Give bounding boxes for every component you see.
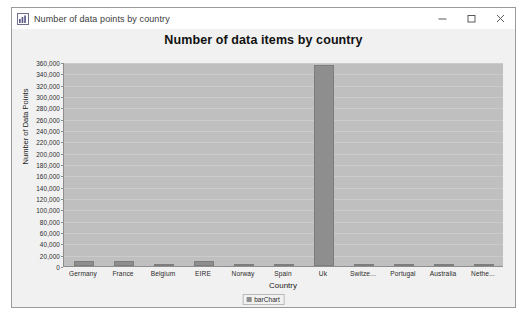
y-axis-ticks: 020,00040,00060,00080,000100,000120,0001… <box>12 63 60 267</box>
gridline <box>64 97 503 98</box>
x-axis-tick-label: Norway <box>232 270 255 277</box>
close-button[interactable] <box>486 8 515 29</box>
gridline <box>64 63 503 64</box>
plot-area <box>63 63 503 267</box>
y-axis-tick-label: 40,000 <box>14 241 60 248</box>
y-axis-tick-label: 200,000 <box>14 150 60 157</box>
gridline <box>64 74 503 75</box>
y-axis-tick-label: 160,000 <box>14 173 60 180</box>
y-axis-tick-label: 260,000 <box>14 116 60 123</box>
gridline <box>64 120 503 121</box>
gridline <box>64 108 503 109</box>
x-axis-tick-label: EIRE <box>195 270 211 277</box>
window-controls <box>428 8 515 29</box>
maximize-icon <box>466 13 477 24</box>
bar[interactable] <box>434 264 455 266</box>
minimize-button[interactable] <box>428 8 457 29</box>
y-axis-tick-label: 240,000 <box>14 128 60 135</box>
gridline <box>64 199 503 200</box>
y-axis-tick-label: 100,000 <box>14 207 60 214</box>
window-title: Number of data points by country <box>34 14 170 24</box>
gridline <box>64 233 503 234</box>
x-axis-title: Country <box>63 281 503 290</box>
bar[interactable] <box>474 264 495 266</box>
gridline <box>64 256 503 257</box>
x-axis-tick-label: Germany <box>69 270 97 277</box>
x-axis-tick-label: Uk <box>319 270 327 277</box>
gridline <box>64 244 503 245</box>
bar[interactable] <box>154 264 175 266</box>
chart-window-icon <box>17 13 29 25</box>
x-axis-tick-label: Nethe... <box>471 270 495 277</box>
legend-swatch-icon <box>246 297 251 302</box>
maximize-button[interactable] <box>457 8 486 29</box>
x-axis-tick-label: France <box>112 270 133 277</box>
bar[interactable] <box>354 264 375 266</box>
bar[interactable] <box>394 264 415 266</box>
y-axis-tick-label: 60,000 <box>14 230 60 237</box>
y-axis-tick-label: 280,000 <box>14 105 60 112</box>
gridline <box>64 222 503 223</box>
y-axis-tick-label: 20,000 <box>14 252 60 259</box>
y-axis-tick-label: 180,000 <box>14 162 60 169</box>
bar[interactable] <box>194 261 215 266</box>
x-axis-tick-label: Switze... <box>350 270 376 277</box>
x-axis-tick-label: Portugal <box>390 270 415 277</box>
gridline <box>64 142 503 143</box>
gridline <box>64 165 503 166</box>
gridline <box>64 210 503 211</box>
bar[interactable] <box>74 261 95 266</box>
y-axis-tick-label: 80,000 <box>14 218 60 225</box>
chart-title: Number of data items by country <box>12 33 515 47</box>
y-axis-tick-label: 340,000 <box>14 71 60 78</box>
y-axis-tick-label: 120,000 <box>14 196 60 203</box>
y-axis-tick-label: 320,000 <box>14 82 60 89</box>
chart-canvas: Number of data items by country Number o… <box>12 29 515 307</box>
gridline <box>64 86 503 87</box>
bar[interactable] <box>274 264 295 266</box>
close-icon <box>495 13 506 24</box>
window-titlebar: Number of data points by country <box>12 8 515 29</box>
legend-label: barChart <box>254 296 280 303</box>
gridline <box>64 154 503 155</box>
x-axis-tick-label: Australia <box>430 270 457 277</box>
gridline <box>64 176 503 177</box>
y-axis-tick-mark <box>61 267 63 268</box>
y-axis-tick-label: 360,000 <box>14 60 60 67</box>
minimize-icon <box>437 13 448 24</box>
y-axis-tick-label: 220,000 <box>14 139 60 146</box>
y-axis-tick-label: 0 <box>14 264 60 271</box>
bar[interactable] <box>114 261 135 266</box>
plot-inner <box>64 63 503 266</box>
bar[interactable] <box>314 65 335 266</box>
chart-legend[interactable]: barChart <box>242 294 285 305</box>
chart-window: Number of data points by country Numbe <box>11 7 516 308</box>
x-axis-tick-label: Belgium <box>151 270 176 277</box>
bar[interactable] <box>234 264 255 266</box>
gridline <box>64 188 503 189</box>
gridline <box>64 131 503 132</box>
x-axis-tick-label: Spain <box>274 270 291 277</box>
y-axis-tick-label: 140,000 <box>14 184 60 191</box>
y-axis-tick-label: 300,000 <box>14 94 60 101</box>
